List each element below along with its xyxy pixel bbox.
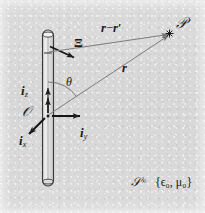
- domain-label: 𝒮∞: [131, 176, 146, 189]
- unit-vector-ix-subscript: x: [23, 140, 27, 149]
- domain-symbol: 𝒮: [131, 175, 141, 189]
- unit-vector-ix-label: ix: [19, 134, 26, 149]
- position-vector-label: r: [122, 62, 127, 75]
- angle-theta-label: θ: [66, 76, 72, 88]
- origin-point-marker: [47, 115, 50, 118]
- unit-vector-iy-subscript: y: [84, 132, 88, 141]
- domain-infinity-exponent: ∞: [141, 176, 146, 185]
- separation-vector-r-prime-term: r′: [113, 21, 121, 35]
- source-element-label: Ξ: [74, 36, 83, 49]
- observation-point-label: 𝒫: [176, 16, 187, 31]
- origin-label: 𝒪: [22, 105, 31, 119]
- medium-constants-label: {ϵ₀, μ₀}: [155, 176, 192, 188]
- observation-point-marker: [166, 30, 174, 38]
- unit-vector-iz-subscript: z: [25, 90, 28, 99]
- separation-vector-line: [49, 35, 168, 53]
- unit-vector-iy-label: iy: [80, 126, 87, 141]
- separation-vector-label: r−r′: [101, 22, 121, 35]
- separation-vector-minus-sign: −: [106, 21, 113, 35]
- antenna-geometry-figure: Ξ r−r′ r 𝒫 θ 𝒪 iz ix iy 𝒮∞ {ϵ₀, μ₀}: [0, 0, 205, 213]
- unit-vector-iz-label: iz: [21, 84, 28, 99]
